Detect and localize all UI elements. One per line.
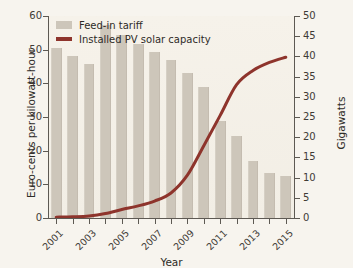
x-tick-label-2013: 2013 [234, 228, 262, 256]
x-tick-2001 [56, 219, 57, 224]
x-tick-2002 [73, 219, 74, 224]
y-tick-label-right-40: 40 [303, 51, 316, 61]
y-axis-left-title: Euro-cents per kilowatt-hour [25, 38, 37, 208]
x-tick-2004 [105, 219, 106, 224]
x-tick-2013 [253, 219, 254, 224]
y-tick-right-30 [295, 97, 300, 98]
y-tick-label-right-10: 10 [303, 173, 316, 183]
y-tick-label-right-30: 30 [303, 92, 316, 102]
y-tick-label-left-0: 0 [36, 213, 42, 223]
pv-capacity-line [56, 57, 286, 217]
y-tick-label-right-20: 20 [303, 132, 316, 142]
line-swatch-icon [56, 37, 72, 41]
bar-swatch-icon [56, 21, 72, 29]
y-tick-label-right-50: 50 [303, 11, 316, 21]
x-tick-2003 [89, 219, 90, 224]
y-tick-right-20 [295, 137, 300, 138]
x-tick-label-2003: 2003 [70, 228, 98, 256]
x-tick-2005 [122, 219, 123, 224]
y-tick-label-right-5: 5 [303, 193, 309, 203]
legend-label-installed-pv-solar-capacity: Installed PV solar capacity [79, 33, 211, 46]
y-tick-right-35 [295, 77, 300, 78]
figure-bottom-margin [0, 268, 353, 278]
x-tick-label-2007: 2007 [135, 228, 163, 256]
y-axis-left-line [48, 16, 49, 219]
x-tick-2007 [155, 219, 156, 224]
y-tick-right-40 [295, 56, 300, 57]
x-tick-2008 [171, 219, 172, 224]
x-axis-title: Year [48, 256, 295, 268]
y-tick-right-5 [295, 198, 300, 199]
chart-legend: Feed-in tariff Installed PV solar capaci… [56, 18, 211, 46]
x-tick-label-2005: 2005 [103, 228, 131, 256]
y-tick-label-right-15: 15 [303, 152, 316, 162]
x-tick-label-2015: 2015 [267, 228, 295, 256]
plot-area [48, 16, 294, 218]
y-tick-left-10 [43, 184, 48, 185]
x-tick-label-2011: 2011 [201, 228, 229, 256]
y-tick-label-right-0: 0 [303, 213, 309, 223]
legend-item-installed-pv-solar-capacity: Installed PV solar capacity [56, 32, 211, 46]
y-tick-left-50 [43, 50, 48, 51]
y-tick-right-25 [295, 117, 300, 118]
y-tick-label-right-25: 25 [303, 112, 316, 122]
x-tick-label-2001: 2001 [37, 228, 65, 256]
x-tick-2012 [237, 219, 238, 224]
x-tick-2009 [187, 219, 188, 224]
y-tick-left-40 [43, 83, 48, 84]
x-tick-2006 [138, 219, 139, 224]
x-tick-2014 [269, 219, 270, 224]
x-tick-2011 [220, 219, 221, 224]
x-tick-2015 [286, 219, 287, 224]
y-tick-right-15 [295, 157, 300, 158]
legend-item-feed-in-tariff: Feed-in tariff [56, 18, 211, 32]
y-tick-left-0 [43, 218, 48, 219]
chart-figure: 0102030405060 05101520253035404550 20012… [0, 0, 353, 278]
y-tick-left-30 [43, 117, 48, 118]
y-tick-label-right-35: 35 [303, 72, 316, 82]
x-tick-2010 [204, 219, 205, 224]
line-series-installed-pv-solar-capacity [48, 16, 294, 218]
x-tick-label-2009: 2009 [168, 228, 196, 256]
y-tick-right-10 [295, 178, 300, 179]
y-tick-label-left-60: 60 [29, 11, 42, 21]
y-tick-right-50 [295, 16, 300, 17]
y-tick-left-20 [43, 151, 48, 152]
y-tick-right-45 [295, 36, 300, 37]
y-tick-left-60 [43, 16, 48, 17]
y-tick-right-0 [295, 218, 300, 219]
y-tick-label-right-45: 45 [303, 31, 316, 41]
legend-label-feed-in-tariff: Feed-in tariff [79, 19, 143, 32]
y-axis-right-title: Gigawatts [335, 68, 347, 178]
